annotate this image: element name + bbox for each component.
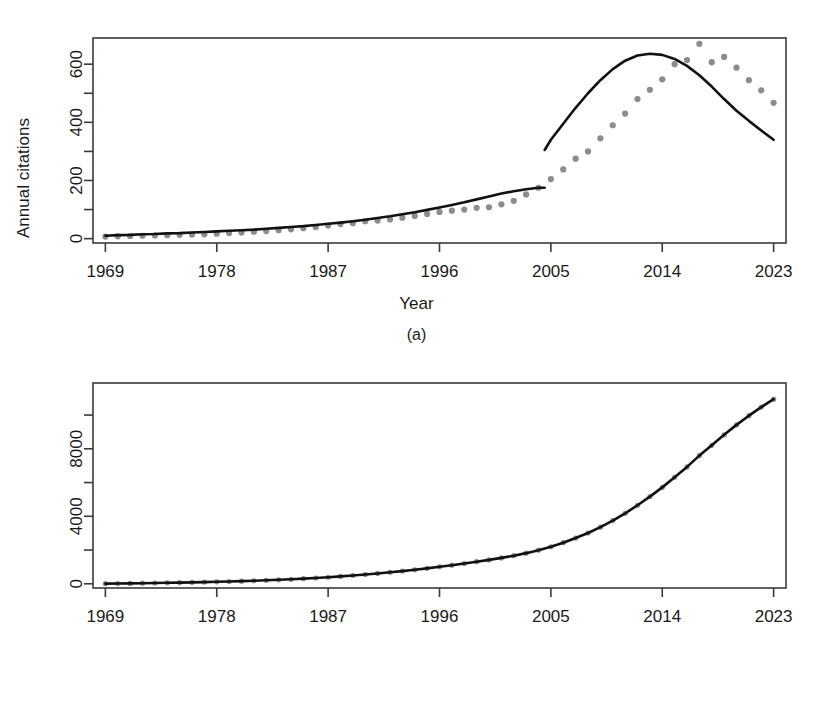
svg-text:1969: 1969: [86, 607, 124, 626]
svg-text:2014: 2014: [643, 607, 681, 626]
panel-b-plot: 1969197819871996200520142023040008000: [0, 360, 833, 650]
panel-a-x-axis-label: Year: [0, 294, 833, 314]
svg-text:2014: 2014: [643, 262, 681, 281]
svg-text:1969: 1969: [86, 262, 124, 281]
svg-text:1996: 1996: [421, 607, 459, 626]
panel-a-caption: (a): [0, 326, 833, 344]
panel-b: Cumulative citations 1969197819871996200…: [0, 360, 833, 718]
svg-text:1996: 1996: [421, 262, 459, 281]
svg-text:2023: 2023: [755, 607, 793, 626]
svg-text:1987: 1987: [309, 262, 347, 281]
citation-figure: Annual citations 19691978198719962005201…: [0, 0, 833, 718]
svg-text:1987: 1987: [309, 607, 347, 626]
svg-text:0: 0: [68, 234, 87, 243]
panel-a-plot: 19691978198719962005201420230200400600: [0, 0, 833, 290]
svg-text:600: 600: [68, 50, 87, 78]
svg-text:1978: 1978: [198, 262, 236, 281]
svg-text:1978: 1978: [198, 607, 236, 626]
svg-text:4000: 4000: [68, 497, 87, 535]
svg-text:200: 200: [68, 166, 87, 194]
svg-text:8000: 8000: [68, 430, 87, 468]
svg-text:2005: 2005: [532, 607, 570, 626]
svg-text:0: 0: [68, 579, 87, 588]
svg-text:400: 400: [68, 108, 87, 136]
svg-text:2023: 2023: [755, 262, 793, 281]
svg-text:2005: 2005: [532, 262, 570, 281]
panel-a: Annual citations 19691978198719962005201…: [0, 0, 833, 360]
